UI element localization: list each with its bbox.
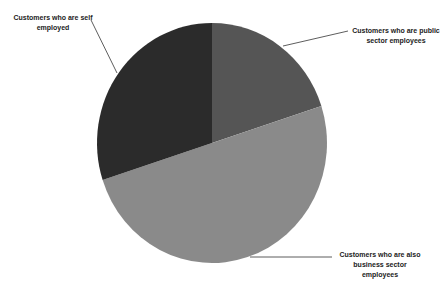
label-line: business sector	[330, 260, 430, 270]
label-line: Customers who are self	[10, 13, 96, 23]
label-business-sector: Customers who are also business sector e…	[330, 250, 430, 280]
leader-line-public	[283, 31, 348, 46]
label-self-employed: Customers who are self employed	[10, 13, 96, 33]
pie-slices	[97, 23, 327, 263]
label-line: employees	[330, 270, 430, 280]
label-public-sector: Customers who are public sector employee…	[346, 26, 443, 46]
label-line: employed	[10, 23, 96, 33]
label-line: Customers who are also	[330, 250, 430, 260]
label-line: Customers who are public	[346, 26, 443, 36]
label-line: sector employees	[346, 36, 443, 46]
